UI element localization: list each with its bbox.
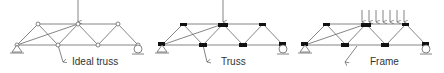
ideal-truss-label: Ideal truss [72, 56, 118, 67]
truss-panel [155, 0, 289, 62]
frame-panel [298, 10, 432, 62]
truss-label: Truss [221, 56, 246, 67]
frame-label: Frame [370, 56, 399, 67]
ideal-truss-panel [10, 0, 144, 62]
